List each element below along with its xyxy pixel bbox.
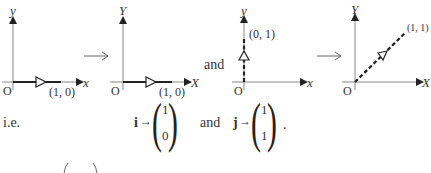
- cropped-next-line: [0, 0, 431, 173]
